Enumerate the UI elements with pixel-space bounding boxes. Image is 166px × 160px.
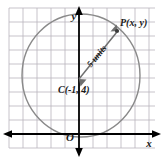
point-P-label: P(x, y) xyxy=(120,17,147,29)
point-C-label: C(-1, 4) xyxy=(58,84,90,96)
geometry-figure-circle: y x O P(x, y) C(-1, 4) 5 units xyxy=(0,0,166,160)
origin-label: O xyxy=(66,131,74,143)
x-axis-label: x xyxy=(145,137,152,149)
point-P-marker xyxy=(115,29,119,33)
y-axis-label: y xyxy=(70,10,77,22)
